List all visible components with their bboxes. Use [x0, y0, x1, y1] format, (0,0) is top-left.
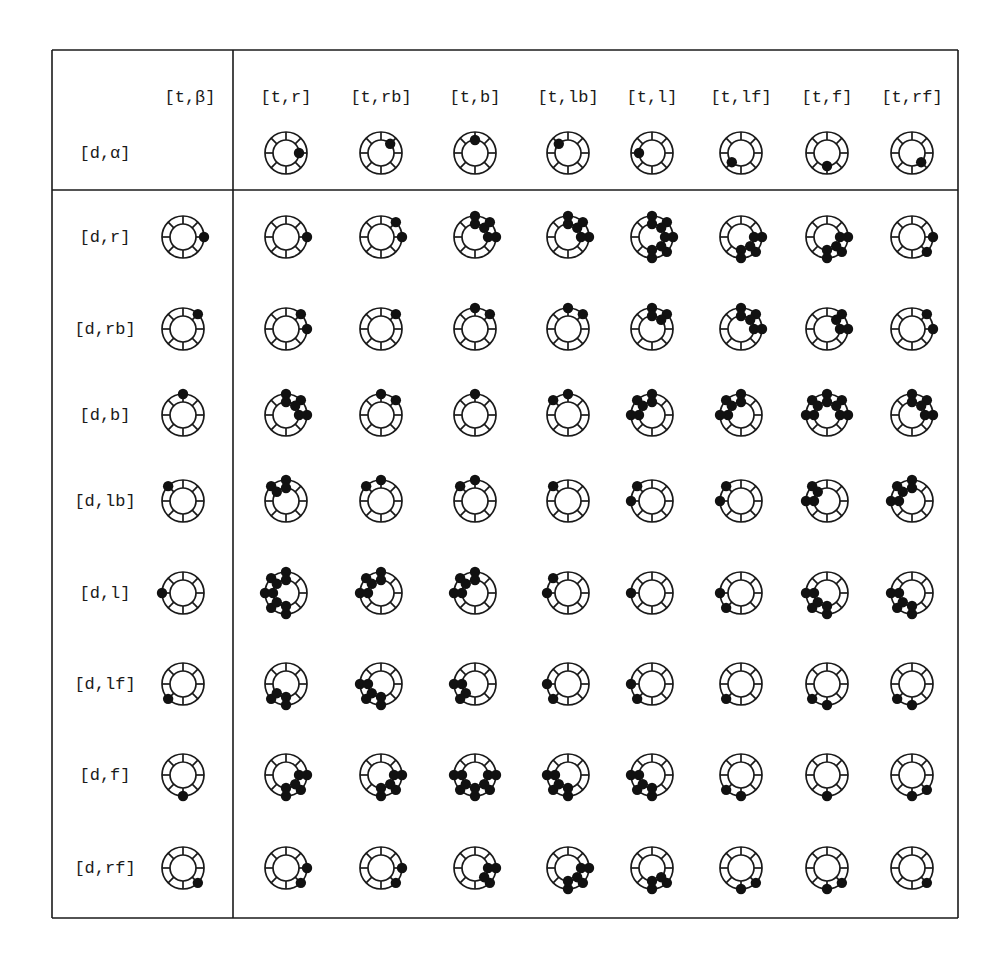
cell-icon-drb-tb [446, 300, 504, 358]
compass-ring-icon [712, 746, 770, 804]
compass-ring-icon [883, 124, 941, 182]
position-dot [157, 588, 167, 598]
position-dot [281, 575, 291, 585]
compass-ring-icon [154, 208, 212, 266]
compass-ring-icon [798, 746, 856, 804]
position-dot [470, 389, 480, 399]
cell-icon-dr-tlf [712, 208, 770, 266]
position-dot [656, 872, 666, 882]
position-dot [626, 410, 636, 420]
compass-ring-icon [446, 124, 504, 182]
position-dot [727, 157, 737, 167]
compass-ring-icon [154, 472, 212, 530]
position-dot [578, 309, 588, 319]
cell-icon-db-tr [257, 386, 315, 444]
position-dot [736, 311, 746, 321]
direction-transition-table: [d,α] [t,β] [t,r][t,rb][t,b][t,lb][t,l][… [0, 0, 1006, 964]
row-header-label: [d,l] [79, 584, 130, 603]
compass-ring-icon [446, 472, 504, 530]
position-dot [376, 700, 386, 710]
position-dot [363, 588, 373, 598]
compass-ring-icon [712, 124, 770, 182]
corner-label-d-alpha: [d,α] [79, 144, 130, 163]
position-dot [831, 315, 841, 325]
position-dot [281, 700, 291, 710]
corner-label-t-beta: [t,β] [164, 88, 215, 107]
column-header-label: [t,lb] [537, 88, 598, 107]
position-dot [470, 211, 480, 221]
compass-ring-icon [883, 564, 941, 622]
compass-ring-icon [446, 208, 504, 266]
compass-ring-icon [539, 472, 597, 530]
cell-icon-drf-tlb [539, 839, 597, 897]
position-dot [268, 588, 278, 598]
compass-ring-icon [257, 839, 315, 897]
position-dot [367, 579, 377, 589]
cell-icon-dl-tl [623, 564, 681, 622]
compass-ring-icon [257, 124, 315, 182]
compass-ring-icon [352, 655, 410, 713]
position-dot [916, 401, 926, 411]
compass-ring-icon [712, 839, 770, 897]
column-header-label: [t,rb] [350, 88, 411, 107]
position-dot [290, 779, 300, 789]
cell-icon-df-tl [623, 746, 681, 804]
compass-ring-icon [257, 564, 315, 622]
cell-icon-dlf-tlf [712, 655, 770, 713]
position-dot [632, 694, 642, 704]
compass-ring-icon [446, 300, 504, 358]
position-dot [736, 253, 746, 263]
position-dot [907, 601, 917, 611]
compass-ring-icon [154, 746, 212, 804]
compass-ring-icon [539, 124, 597, 182]
compass-ring-icon [352, 386, 410, 444]
position-dot [745, 241, 755, 251]
cell-icon-dlb-tf [798, 472, 856, 530]
position-dot [272, 487, 282, 497]
cell-icon-dlb-trb [352, 472, 410, 530]
position-dot [281, 601, 291, 611]
position-dot [193, 878, 203, 888]
position-dot [542, 770, 552, 780]
cell-icon-df-tr [257, 746, 315, 804]
position-dot [822, 397, 832, 407]
position-dot [449, 770, 459, 780]
column-header-label: [t,lf] [710, 88, 771, 107]
position-dot [898, 597, 908, 607]
position-dot [831, 241, 841, 251]
row-header-label: [d,rf] [74, 859, 135, 878]
cell-icon-dlf-tr [257, 655, 315, 713]
position-dot [835, 232, 845, 242]
compass-ring-icon [623, 386, 681, 444]
cell-icon-dlb-tr [257, 472, 315, 530]
row-header-label: [d,lf] [74, 675, 135, 694]
cell-icon-drf-tr [257, 839, 315, 897]
compass-ring-icon [798, 300, 856, 358]
cell-icon-dl-tr [257, 564, 315, 622]
compass-ring-icon [623, 746, 681, 804]
position-dot [843, 410, 853, 420]
position-dot [302, 232, 312, 242]
position-dot [922, 785, 932, 795]
compass-ring-icon [446, 655, 504, 713]
position-dot [199, 232, 209, 242]
column-header-label: [t,b] [449, 88, 500, 107]
row-header-icon-lb [154, 472, 212, 530]
cell-icon-drb-tr [257, 300, 315, 358]
compass-ring-icon [623, 208, 681, 266]
compass-ring-icon [154, 300, 212, 358]
cell-icon-db-trb [352, 386, 410, 444]
position-dot [361, 481, 371, 491]
compass-ring-icon [712, 208, 770, 266]
compass-ring-icon [539, 746, 597, 804]
position-dot [376, 575, 386, 585]
position-dot [656, 223, 666, 233]
row-header-icon-f [154, 746, 212, 804]
cell-icon-dl-trb [352, 564, 410, 622]
position-dot [391, 309, 401, 319]
compass-ring-icon [798, 472, 856, 530]
position-dot [831, 401, 841, 411]
position-dot [470, 783, 480, 793]
position-dot [385, 779, 395, 789]
position-dot [193, 309, 203, 319]
